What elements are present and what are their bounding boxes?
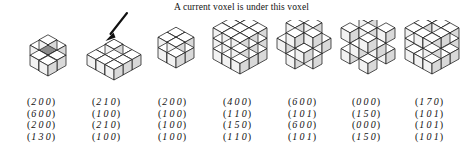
matrix-digit: 0 [425,119,432,130]
matrix-digit: 1 [433,108,440,119]
matrix-digit: 0 [298,96,305,107]
close-paren: ) [52,96,55,107]
matrix-digit: 0 [362,96,369,107]
close-paren: ) [52,119,55,130]
matrix-row-values: (100) [139,108,205,120]
matrix-row-values: (150) [204,119,270,131]
matrix-digit: 0 [370,119,377,130]
matrix-row-values: (101) [396,108,462,120]
close-paren: ) [248,108,251,119]
close-paren: ) [377,108,380,119]
close-paren: ) [313,119,316,130]
close-paren: ) [377,119,380,130]
three-by-three-solid-cube-figure [210,20,280,92]
caption-text: A current voxel is under this voxel [156,2,309,12]
matrix-digit: 0 [298,108,305,119]
matrix-digit: 0 [233,96,240,107]
close-paren: ) [52,131,55,142]
close-paren: ) [440,108,443,119]
matrix-block: (170)(101)(101)(101) [396,96,462,142]
matrix-row-values: (100) [73,108,139,120]
matrix-row-values: (100) [139,119,205,131]
matrix-digit: 0 [110,96,117,107]
matrix-digit: 5 [362,108,369,119]
close-paren: ) [183,96,186,107]
matrix-digit: 0 [45,119,52,130]
matrix-block: (000)(150)(000)(150) [333,96,399,142]
matrix-digit: 1 [102,119,109,130]
alternating-voxel-cube-figure [336,20,406,92]
matrix-digit: 5 [233,119,240,130]
matrix-digit: 0 [110,131,117,142]
close-paren: ) [117,108,120,119]
matrix-row-values: (170) [396,96,462,108]
matrix-block: (210)(100)(210)(100) [73,96,139,142]
matrix-row-values: (150) [333,131,399,143]
matrix-digit: 0 [176,96,183,107]
matrix-row: (200)(600)(200)(130)(210)(100)(210)(100)… [0,96,465,152]
matrix-row-values: (101) [269,131,335,143]
matrix-digit: 0 [306,119,313,130]
matrix-block: (200)(100)(100)(100) [139,96,205,142]
matrix-digit: 0 [102,131,109,142]
matrix-row-values: (110) [204,108,270,120]
matrix-digit: 0 [370,96,377,107]
matrix-digit: 7 [425,96,432,107]
matrix-digit: 0 [241,131,248,142]
matrix-block: (400)(110)(150)(110) [204,96,270,142]
matrix-row-values: (600) [269,119,335,131]
matrix-digit: 0 [370,108,377,119]
matrix-digit: 0 [37,108,44,119]
matrix-digit: 0 [176,119,183,130]
checker-voxel-cube-figure [272,20,342,92]
matrix-row-values: (000) [333,96,399,108]
matrix-row-values: (200) [8,119,74,131]
matrix-digit: 0 [110,108,117,119]
matrix-digit: 0 [102,108,109,119]
close-paren: ) [183,108,186,119]
close-paren: ) [117,119,120,130]
matrix-digit: 0 [45,96,52,107]
matrix-digit: 0 [425,108,432,119]
matrix-digit: 0 [176,108,183,119]
matrix-row-values: (600) [8,108,74,120]
matrix-digit: 1 [306,131,313,142]
matrix-digit: 0 [425,131,432,142]
matrix-digit: 3 [37,131,44,142]
cross-lattice-voxel-cube-figure [400,20,465,92]
matrix-row-values: (600) [269,96,335,108]
matrix-digit: 0 [241,96,248,107]
matrix-digit: 0 [110,119,117,130]
matrix-digit: 0 [306,96,313,107]
matrix-digit: 0 [37,96,44,107]
matrix-block: (600)(101)(600)(101) [269,96,335,142]
close-paren: ) [117,96,120,107]
close-paren: ) [52,108,55,119]
matrix-row-values: (130) [8,131,74,143]
close-paren: ) [440,96,443,107]
matrix-digit: 0 [176,131,183,142]
close-paren: ) [248,96,251,107]
matrix-digit: 1 [433,131,440,142]
matrix-digit: 5 [362,131,369,142]
matrix-digit: 0 [168,131,175,142]
matrix-digit: 1 [102,96,109,107]
close-paren: ) [248,131,251,142]
matrix-row-values: (101) [269,108,335,120]
close-paren: ) [248,119,251,130]
matrix-row-values: (101) [396,131,462,143]
matrix-digit: 0 [370,131,377,142]
matrix-digit: 0 [362,119,369,130]
matrix-digit: 0 [298,119,305,130]
matrix-row-values: (200) [139,96,205,108]
matrix-digit: 0 [45,108,52,119]
close-paren: ) [313,131,316,142]
matrix-digit: 0 [168,96,175,107]
close-paren: ) [440,131,443,142]
close-paren: ) [377,131,380,142]
matrix-digit: 1 [433,119,440,130]
matrix-row-values: (101) [396,119,462,131]
close-paren: ) [440,119,443,130]
close-paren: ) [183,119,186,130]
matrix-row-values: (110) [204,131,270,143]
